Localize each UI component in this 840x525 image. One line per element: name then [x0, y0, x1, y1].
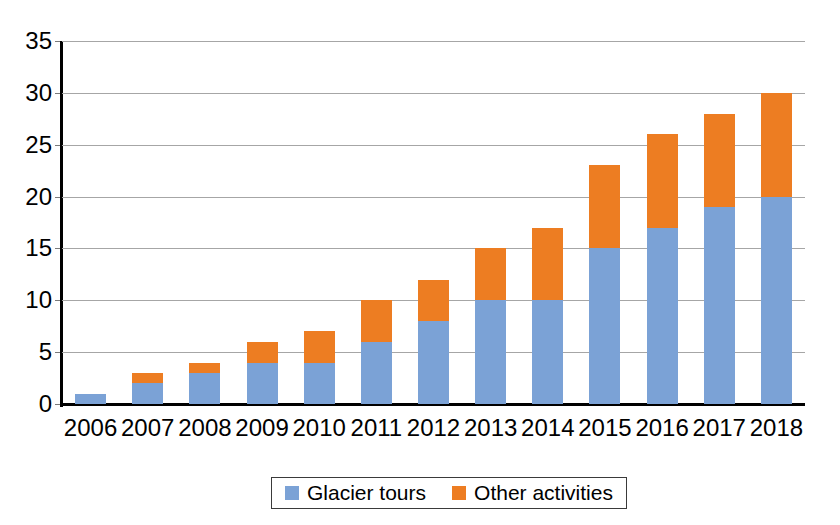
x-tick-label-2016: 2016 [635, 414, 688, 442]
bar-segment-2008-glacier-tours[interactable] [189, 373, 220, 404]
bar-segment-2006-glacier-tours[interactable] [75, 394, 106, 404]
x-tick-label-2013: 2013 [464, 414, 517, 442]
x-tick-label-2009: 2009 [235, 414, 288, 442]
y-tick-label-25: 25 [25, 131, 52, 159]
bar-segment-2018-glacier-tours[interactable] [761, 197, 792, 404]
x-tick-label-2007: 2007 [121, 414, 174, 442]
bar-segment-2018-other-activities[interactable] [761, 93, 792, 197]
legend-item-other-activities[interactable]: Other activities [452, 482, 613, 503]
bar-segment-2016-glacier-tours[interactable] [647, 228, 678, 404]
x-tick-label-2008: 2008 [178, 414, 231, 442]
bar-segment-2017-other-activities[interactable] [704, 114, 735, 207]
bar-segment-2013-glacier-tours[interactable] [475, 300, 506, 404]
bar-segment-2014-glacier-tours[interactable] [532, 300, 563, 404]
y-tick-label-20: 20 [25, 183, 52, 211]
bar-segment-2017-glacier-tours[interactable] [704, 207, 735, 404]
bar-segment-2015-glacier-tours[interactable] [589, 248, 620, 404]
y-tick-label-30: 30 [25, 79, 52, 107]
x-tick-label-2015: 2015 [578, 414, 631, 442]
legend-swatch-icon [285, 486, 299, 500]
x-tick-label-2018: 2018 [750, 414, 803, 442]
bar-segment-2011-other-activities[interactable] [361, 300, 392, 341]
y-axis-labels: 05101520253035 [0, 0, 52, 525]
legend-label: Other activities [474, 482, 613, 503]
bar-segment-2011-glacier-tours[interactable] [361, 342, 392, 404]
bar-segment-2016-other-activities[interactable] [647, 134, 678, 227]
y-tick-label-35: 35 [25, 27, 52, 55]
y-tick-label-0: 0 [39, 390, 52, 418]
x-axis-labels: 2006200720082009201020112012201320142015… [62, 414, 805, 448]
y-tick-label-5: 5 [39, 338, 52, 366]
x-tick-label-2006: 2006 [64, 414, 117, 442]
bar-segment-2015-other-activities[interactable] [589, 165, 620, 248]
bar-segment-2010-glacier-tours[interactable] [304, 363, 335, 404]
bars-layer [62, 41, 805, 404]
legend-item-glacier-tours[interactable]: Glacier tours [285, 482, 426, 503]
x-tick-label-2010: 2010 [292, 414, 345, 442]
legend-label: Glacier tours [307, 482, 426, 503]
bar-segment-2012-glacier-tours[interactable] [418, 321, 449, 404]
x-tick-label-2011: 2011 [351, 414, 403, 442]
chart-legend: Glacier toursOther activities [271, 477, 627, 509]
bar-segment-2009-other-activities[interactable] [247, 342, 278, 363]
bar-segment-2007-glacier-tours[interactable] [132, 383, 163, 404]
y-tick-label-10: 10 [25, 286, 52, 314]
legend-swatch-icon [452, 486, 466, 500]
y-tick-label-15: 15 [25, 234, 52, 262]
bar-segment-2013-other-activities[interactable] [475, 248, 506, 300]
bar-segment-2007-other-activities[interactable] [132, 373, 163, 383]
bar-segment-2014-other-activities[interactable] [532, 228, 563, 301]
bar-segment-2009-glacier-tours[interactable] [247, 363, 278, 404]
x-tick-label-2017: 2017 [693, 414, 746, 442]
stacked-bar-chart: 05101520253035 2006200720082009201020112… [0, 0, 840, 525]
x-tick-label-2012: 2012 [407, 414, 460, 442]
bar-segment-2008-other-activities[interactable] [189, 363, 220, 373]
bar-segment-2010-other-activities[interactable] [304, 331, 335, 362]
x-tick-label-2014: 2014 [521, 414, 574, 442]
bar-segment-2012-other-activities[interactable] [418, 280, 449, 321]
